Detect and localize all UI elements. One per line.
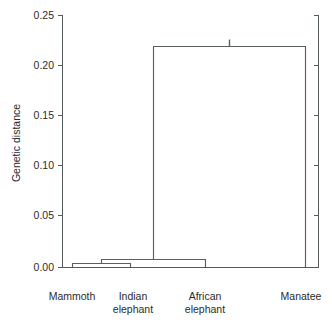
leaf-label-mammoth: Mammoth	[49, 290, 96, 302]
y-axis-title: Genetic distance	[10, 104, 22, 182]
leaf-label-manatee: Manatee	[281, 290, 322, 302]
dendrogram-figure: 0.25 0.20 0.15 0.10 0.05 0.00 Genetic di…	[0, 0, 332, 329]
leaf-label-indian-elephant-line2: elephant	[113, 303, 153, 315]
leaf-label-african-elephant-line1: African	[189, 290, 222, 302]
y-tick-label-0.25: 0.25	[34, 9, 55, 21]
leaf-label-indian-elephant-line1: Indian	[119, 290, 148, 302]
link-mammoth-indian	[73, 264, 131, 268]
y-tick-label-0.20: 0.20	[34, 59, 55, 71]
y-tick-label-0.10: 0.10	[34, 159, 55, 171]
link-root-manatee	[154, 47, 306, 268]
y-axis-left-spine	[63, 16, 319, 268]
leaf-label-african-elephant-line2: elephant	[185, 303, 225, 315]
y-tick-label-0.05: 0.05	[34, 209, 55, 221]
dendrogram-links	[73, 40, 306, 268]
y-tick-label-0.00: 0.00	[34, 261, 55, 273]
genetic-distance-dendrogram: 0.25 0.20 0.15 0.10 0.05 0.00 Genetic di…	[0, 0, 332, 329]
y-tick-label-0.15: 0.15	[34, 109, 55, 121]
